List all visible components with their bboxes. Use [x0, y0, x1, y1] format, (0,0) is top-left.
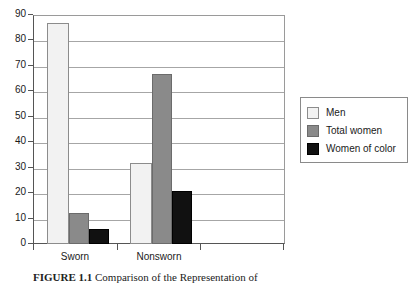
legend-label-men: Men	[326, 107, 345, 119]
legend-label-total-women: Total women	[326, 125, 382, 137]
x-axis-separator	[283, 244, 284, 250]
legend-swatch-total-women-icon	[307, 125, 319, 137]
y-tick-label: 40	[15, 135, 26, 147]
y-tick-label: 30	[15, 161, 26, 173]
bar-sworn-men	[47, 23, 69, 244]
y-tick-label: 80	[15, 33, 26, 45]
bar-nonsworn-men	[130, 163, 152, 244]
legend-swatch-women-of-color-icon	[307, 143, 319, 155]
y-tick-label: 10	[15, 212, 26, 224]
legend-item-women-of-color: Women of color	[307, 140, 402, 158]
x-axis-separator	[200, 244, 201, 250]
x-axis: Sworn Nonsworn	[33, 244, 285, 268]
legend-item-total-women: Total women	[307, 122, 402, 140]
figure-caption-text: Comparison of the Representation of	[95, 271, 258, 283]
y-tick-label: 0	[20, 237, 26, 249]
y-tick-label: 50	[15, 110, 26, 122]
legend-swatch-men-icon	[307, 107, 319, 119]
bar-sworn-women-of-color	[89, 229, 109, 244]
y-tick-label: 90	[15, 8, 26, 20]
x-tick-label-sworn: Sworn	[61, 251, 89, 262]
legend-label-women-of-color: Women of color	[326, 143, 396, 155]
y-tick-label: 20	[15, 186, 26, 198]
x-tick-label-nonsworn: Nonsworn	[136, 251, 181, 262]
figure-caption-number: FIGURE 1.1	[33, 271, 92, 283]
x-axis-separator	[117, 244, 118, 250]
y-axis: 90 80 70 60 50 40 30 20	[0, 15, 33, 245]
bar-sworn-total-women	[69, 213, 89, 244]
x-axis-separator	[33, 244, 34, 250]
bar-series-container	[34, 16, 284, 244]
figure-caption: FIGURE 1.1 Comparison of the Representat…	[33, 271, 403, 283]
bar-nonsworn-total-women	[152, 74, 172, 244]
y-tick-label: 60	[15, 84, 26, 96]
legend-item-men: Men	[307, 104, 402, 122]
chart-legend: Men Total women Women of color	[300, 97, 408, 163]
bar-nonsworn-women-of-color	[172, 191, 192, 244]
y-tick-label: 70	[15, 59, 26, 71]
